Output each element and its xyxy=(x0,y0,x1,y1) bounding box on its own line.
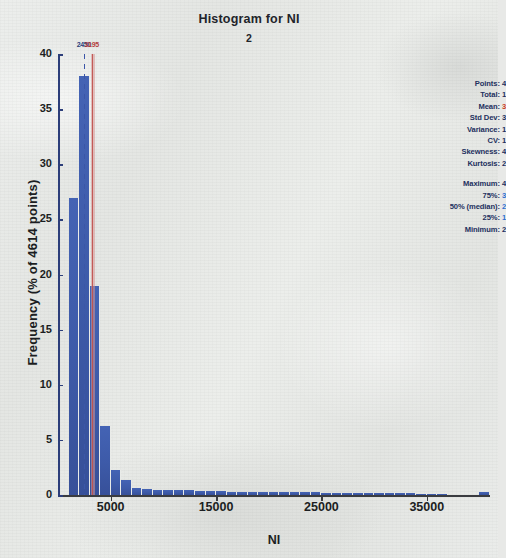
stat-variance-value: 1 xyxy=(502,125,506,134)
y-axis-title: Frequency (% of 4614 points) xyxy=(25,133,40,413)
histogram-bar xyxy=(385,493,396,495)
x-axis-title: NI xyxy=(58,533,490,547)
mean-line-label: 3195 xyxy=(84,41,98,48)
y-axis-tick-label: 0 xyxy=(26,488,52,500)
stat-std-dev: Std Dev: 3 xyxy=(330,112,506,123)
y-axis-tick-label: 5 xyxy=(26,433,52,445)
x-axis-tick-mark xyxy=(216,495,218,501)
stat-minimum: Minimum: 2 xyxy=(330,224,506,235)
stat-std-dev-label: Std Dev: xyxy=(470,113,500,122)
stat-points: Points: 4 xyxy=(330,78,506,89)
histogram-bar xyxy=(479,492,490,495)
stat-minimum-value: 2 xyxy=(502,225,506,234)
histogram-bar xyxy=(111,470,122,495)
x-axis-tick-label: 35000 xyxy=(409,500,444,514)
histogram-bar xyxy=(427,494,438,495)
x-axis-line xyxy=(58,495,490,497)
stat-total-label: Total: xyxy=(480,90,500,99)
histogram-bar xyxy=(374,493,385,495)
stat-median-value: 2 xyxy=(502,202,506,211)
histogram-bar xyxy=(332,493,343,495)
stat-maximum: Maximum: 4 xyxy=(330,178,506,189)
stat-p75-value: 3 xyxy=(502,191,506,200)
histogram-bar xyxy=(100,426,111,495)
stat-p25-value: 1 xyxy=(502,213,506,222)
stat-total-value: 1 xyxy=(502,90,506,99)
histogram-bar xyxy=(195,491,206,495)
stat-p75-label: 75%: xyxy=(483,191,500,200)
histogram-bar xyxy=(353,493,364,495)
histogram-bar xyxy=(163,490,174,496)
stats-divider xyxy=(330,169,506,178)
histogram-bar xyxy=(321,493,332,495)
stat-maximum-value: 4 xyxy=(502,179,506,188)
histogram-bar xyxy=(406,493,417,495)
stat-mean: Mean: 3 xyxy=(330,101,506,112)
histogram-bar xyxy=(342,493,353,495)
histogram-bar xyxy=(248,492,259,495)
stat-variance-label: Variance: xyxy=(467,125,500,134)
histogram-bar xyxy=(184,490,195,495)
x-axis-tick-mark xyxy=(111,495,113,501)
histogram-bar xyxy=(437,494,448,495)
stat-cv: CV: 1 xyxy=(330,135,506,146)
histogram-bar xyxy=(364,493,375,495)
histogram-bar xyxy=(142,489,153,495)
histogram-bar xyxy=(300,492,311,495)
stat-p75: 75%: 3 xyxy=(330,190,506,201)
stat-points-value: 4 xyxy=(502,79,506,88)
stat-median: 50% (median): 2 xyxy=(330,201,506,212)
histogram-bar xyxy=(132,488,143,495)
histogram-bar xyxy=(395,493,406,495)
x-axis-tick-label: 5000 xyxy=(97,500,125,514)
histogram-bar xyxy=(121,480,132,495)
median-line xyxy=(84,54,86,495)
stat-skewness: Skewness: 4 xyxy=(330,146,506,157)
stat-mean-label: Mean: xyxy=(478,102,499,111)
histogram-bar xyxy=(237,492,248,495)
histogram-bar xyxy=(258,492,269,495)
histogram-bar xyxy=(216,491,227,495)
stat-cv-label: CV: xyxy=(488,136,500,145)
y-axis-tick-mark xyxy=(58,495,63,497)
stat-variance: Variance: 1 xyxy=(330,124,506,135)
statistics-panel: Points: 4 Total: 1 Mean: 3 Std Dev: 3 Va… xyxy=(330,78,506,235)
histogram-bar xyxy=(174,490,185,495)
stat-cv-value: 1 xyxy=(502,136,506,145)
histogram-bar xyxy=(279,492,290,495)
stat-total: Total: 1 xyxy=(330,89,506,100)
x-axis-tick-label: 15000 xyxy=(199,500,234,514)
stat-minimum-label: Minimum: xyxy=(465,225,500,234)
stat-maximum-label: Maximum: xyxy=(463,179,500,188)
stat-kurtosis: Kurtosis: 2 xyxy=(330,158,506,169)
stat-kurtosis-label: Kurtosis: xyxy=(467,159,499,168)
stat-p25-label: 25%: xyxy=(483,213,500,222)
stat-kurtosis-value: 2 xyxy=(502,159,506,168)
stat-median-label: 50% (median): xyxy=(450,202,500,211)
y-axis-tick-label: 35 xyxy=(26,102,52,114)
histogram-bar xyxy=(269,492,280,495)
stat-mean-value: 3 xyxy=(502,102,506,111)
chart-subtitle: 2 xyxy=(0,32,498,44)
y-axis-tick-label: 40 xyxy=(26,47,52,59)
histogram-bar xyxy=(153,490,164,496)
x-axis-tick-label: 25000 xyxy=(304,500,339,514)
stat-skewness-value: 4 xyxy=(502,147,506,156)
chart-title: Histogram for NI xyxy=(0,12,498,26)
mean-line xyxy=(92,54,93,495)
histogram-bar xyxy=(206,491,217,495)
x-axis-tick-mark xyxy=(321,495,323,501)
stat-skewness-label: Skewness: xyxy=(462,147,500,156)
stat-points-label: Points: xyxy=(475,79,500,88)
x-axis-tick-mark xyxy=(427,495,429,501)
histogram-bar xyxy=(227,492,238,495)
histogram-bar xyxy=(290,492,301,495)
histogram-bar xyxy=(311,492,322,495)
histogram-bar xyxy=(69,198,80,495)
stat-p25: 25%: 1 xyxy=(330,212,506,223)
histogram-bar xyxy=(416,494,427,495)
stat-std-dev-value: 3 xyxy=(502,113,506,122)
